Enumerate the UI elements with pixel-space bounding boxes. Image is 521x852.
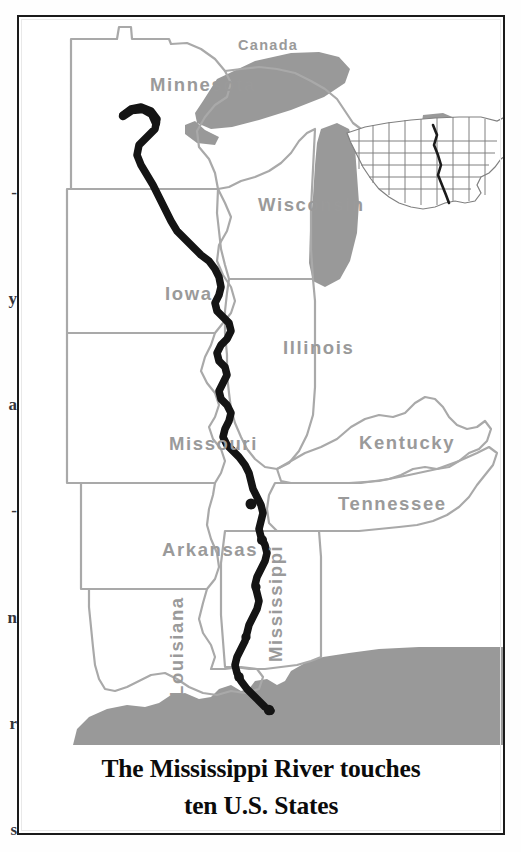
map-label-iowa: Iowa xyxy=(165,283,213,304)
margin-bleed-line: n xyxy=(0,600,16,635)
mississippi-river-map: Canada Minnesota Wisconsin Iowa Illinois… xyxy=(19,17,503,745)
margin-bleed-line: - xyxy=(0,175,16,210)
figure-frame: Canada Minnesota Wisconsin Iowa Illinois… xyxy=(17,15,505,835)
margin-bleed-line: a xyxy=(0,387,16,422)
arkansas-border xyxy=(81,483,219,589)
map-label-missouri: Missouri xyxy=(169,433,258,454)
caption-line-2: ten U.S. States xyxy=(19,787,503,824)
map-label-louisiana: Louisiana xyxy=(166,596,187,697)
map-label-wisconsin: Wisconsin xyxy=(258,194,365,215)
margin-bleed-text: - y a - n r s 0 s s e y e d e y - e 0 xyxy=(0,104,16,852)
margin-bleed-line: s xyxy=(0,812,16,847)
tennessee-border xyxy=(267,447,497,531)
map-label-kentucky: Kentucky xyxy=(359,432,455,453)
mississippi-river-path xyxy=(123,107,274,715)
scanned-page: - y a - n r s 0 s s e y e d e y - e 0 xyxy=(0,0,521,852)
united-states-locator-inset xyxy=(347,113,503,209)
margin-bleed-line: y xyxy=(0,281,16,316)
map-area: Canada Minnesota Wisconsin Iowa Illinois… xyxy=(19,17,503,745)
figure-caption: The Mississippi River touches ten U.S. S… xyxy=(19,750,503,824)
map-label-minnesota: Minnesota xyxy=(150,74,256,95)
map-label-tennessee: Tennessee xyxy=(338,493,447,514)
map-label-illinois: Illinois xyxy=(283,337,354,358)
margin-bleed-line: r xyxy=(0,706,16,741)
gulf-of-mexico-shape xyxy=(73,647,503,745)
map-label-arkansas: Arkansas xyxy=(162,539,258,560)
margin-bleed-line: - xyxy=(0,493,16,528)
missouri-border xyxy=(67,333,225,483)
map-label-canada: Canada xyxy=(238,37,298,53)
map-label-mississippi: Mississippi xyxy=(265,545,286,662)
caption-line-1: The Mississippi River touches xyxy=(19,750,503,787)
inset-us-outline xyxy=(347,117,503,209)
